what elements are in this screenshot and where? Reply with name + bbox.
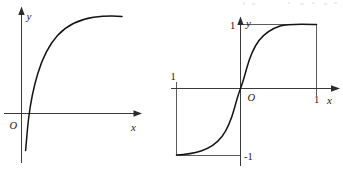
right-graph-panel: 1 -1 -1 1 y x O: [171, 0, 343, 173]
right-y-axis-label: y: [245, 17, 251, 29]
right-sigmoid-curve-path: [177, 24, 317, 155]
right-y-axis-arrow-icon: [237, 17, 243, 26]
left-y-axis-arrow-icon: [18, 7, 24, 16]
left-origin-label: O: [10, 120, 18, 131]
left-graph-svg: y x O: [0, 0, 171, 173]
right-y-tick-negative-label: -1: [244, 151, 253, 162]
right-y-tick-positive-label: 1: [230, 20, 235, 31]
right-origin-label: O: [248, 92, 256, 103]
left-x-axis-label: x: [130, 121, 136, 133]
right-x-tick-negative-label: -1: [171, 71, 176, 82]
right-x-axis-arrow-icon: [331, 85, 340, 92]
right-x-axis-label: x: [326, 94, 332, 106]
figure-root: y x O 1 -1: [0, 0, 343, 173]
left-logarithmic-curve-path: [26, 16, 122, 150]
left-x-axis-arrow-icon: [134, 110, 143, 117]
left-graph-panel: y x O: [0, 0, 171, 173]
left-y-axis-label: y: [26, 10, 32, 22]
right-x-tick-positive-label: 1: [314, 94, 319, 105]
right-graph-svg: 1 -1 -1 1 y x O: [171, 0, 343, 173]
